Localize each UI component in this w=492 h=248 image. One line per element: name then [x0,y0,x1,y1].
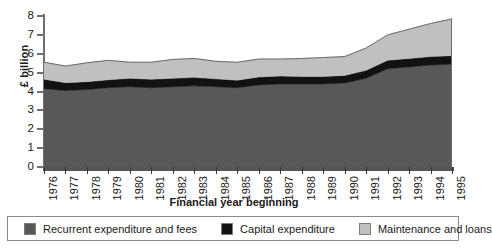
y-tick-label: 4 [12,86,34,96]
x-tick [388,167,389,174]
x-tick [151,167,152,174]
plot-area [44,16,452,167]
legend-label: Maintenance and loans [378,223,492,235]
legend-item[interactable]: Maintenance and loans [359,223,492,235]
y-tick [37,91,44,93]
y-tick [37,128,44,130]
y-tick-label: 2 [12,123,34,133]
x-tick [452,167,453,174]
y-tick-label: 8 [12,10,34,20]
x-tick [173,167,174,174]
y-tick [37,34,44,36]
x-tick [44,167,45,174]
y-tick [37,53,44,55]
x-tick [87,167,88,174]
legend-swatch [221,223,233,235]
y-tick-label: 6 [12,48,34,58]
x-tick [431,167,432,174]
y-tick-label: 7 [12,29,34,39]
legend-swatch [359,223,371,235]
legend-item[interactable]: Recurrent expenditure and fees [24,223,197,235]
x-tick [366,167,367,174]
x-tick [65,167,66,174]
legend-label: Capital expenditure [240,223,335,235]
legend-label: Recurrent expenditure and fees [43,223,197,235]
x-tick [237,167,238,174]
y-tick-label: 3 [12,104,34,114]
y-tick-label: 1 [12,142,34,152]
x-axis-title: Financial year beginning [0,196,468,208]
x-tick [108,167,109,174]
legend-item[interactable]: Capital expenditure [221,223,335,235]
stacked-area-svg [44,16,452,167]
legend-swatch [24,223,36,235]
y-tick-label: 0 [12,161,34,171]
x-tick [130,167,131,174]
x-tick [302,167,303,174]
x-tick [345,167,346,174]
x-tick [409,167,410,174]
y-tick [37,147,44,149]
x-tick [280,167,281,174]
x-tick [194,167,195,174]
y-tick [37,15,44,17]
chart-legend: Recurrent expenditure and feesCapital ex… [7,216,459,241]
x-tick [323,167,324,174]
y-tick [37,72,44,74]
y-tick-label: 5 [12,67,34,77]
x-tick [259,167,260,174]
x-axis-line [43,167,454,171]
y-tick [37,109,44,111]
y-tick [37,166,44,168]
x-tick [216,167,217,174]
